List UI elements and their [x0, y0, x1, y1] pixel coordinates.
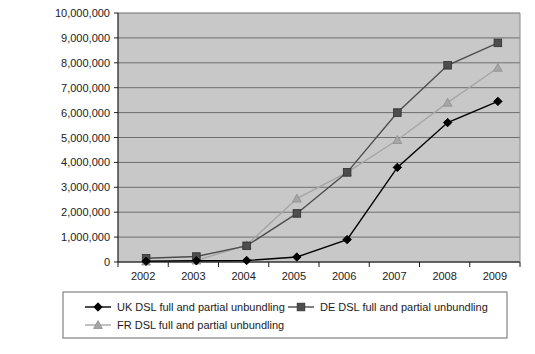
x-axis-tick-label: 2006: [332, 270, 356, 282]
square-marker: [297, 303, 305, 311]
y-axis-tick-label: 2,000,000: [61, 206, 110, 218]
y-axis-tick-label: 8,000,000: [61, 57, 110, 69]
x-axis-tick-label: 2005: [282, 270, 306, 282]
square-marker: [394, 109, 402, 117]
x-axis-tick-label: 2008: [432, 270, 456, 282]
x-axis-tick-label: 2004: [231, 270, 255, 282]
square-marker: [494, 39, 502, 47]
x-axis-tick-label: 2007: [382, 270, 406, 282]
x-axis-tick-label: 2009: [483, 270, 507, 282]
y-axis-tick-label: 5,000,000: [61, 132, 110, 144]
line-chart: 10,000,0009,000,0008,000,0007,000,0006,0…: [0, 0, 535, 354]
data-point-marker: [494, 39, 502, 47]
square-marker: [343, 169, 351, 177]
y-axis-tick-label: 6,000,000: [61, 107, 110, 119]
legend-box: [63, 292, 507, 338]
data-point-marker: [444, 61, 452, 69]
y-axis-tick-label: 9,000,000: [61, 32, 110, 44]
chart-canvas: 10,000,0009,000,0008,000,0007,000,0006,0…: [0, 0, 535, 354]
x-axis-tick-label: 2003: [181, 270, 205, 282]
legend-label: UK DSL full and partial unbundling: [117, 301, 285, 313]
y-axis-tick-label: 7,000,000: [61, 82, 110, 94]
y-axis-tick-label: 10,000,000: [55, 7, 110, 19]
legend-label: FR DSL full and partial unbundling: [117, 319, 284, 331]
y-axis-tick-label: 0: [104, 256, 110, 268]
x-axis-tick-label: 2002: [131, 270, 155, 282]
data-point-marker: [243, 242, 251, 250]
data-point-marker: [343, 169, 351, 177]
data-point-marker: [297, 303, 305, 311]
square-marker: [444, 61, 452, 69]
chart-legend: UK DSL full and partial unbundlingDE DSL…: [63, 292, 507, 338]
square-marker: [243, 242, 251, 250]
y-axis-tick-label: 4,000,000: [61, 156, 110, 168]
y-axis-tick-label: 1,000,000: [61, 231, 110, 243]
y-axis-tick-label: 3,000,000: [61, 181, 110, 193]
data-point-marker: [293, 210, 301, 218]
legend-label: DE DSL full and partial unbundling: [320, 301, 488, 313]
square-marker: [293, 210, 301, 218]
data-point-marker: [394, 109, 402, 117]
